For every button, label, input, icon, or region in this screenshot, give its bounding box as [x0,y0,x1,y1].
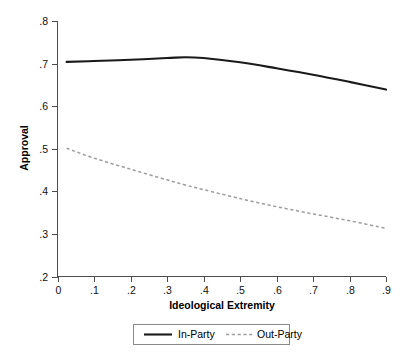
line-chart: .2.3.4.5.6.7.8 Approval 0.1.2.3.4.5.6.7.… [0,0,402,360]
y-tick-label: .6 [39,100,48,112]
x-axis-title: Ideological Extremity [169,299,275,311]
x-tick-label: .2 [127,284,136,296]
x-axis: 0.1.2.3.4.5.6.7.8.9 Ideological Extremit… [56,277,391,312]
x-tick-label: .4 [200,284,209,296]
series-line-in-party [67,57,386,89]
x-tick-label: .3 [163,284,172,296]
x-tick-label: .5 [236,284,245,296]
y-axis-title: Approval [18,125,30,171]
y-tick-label: .3 [39,228,48,240]
y-tick-label: .7 [39,58,48,70]
x-tick-label: .6 [273,284,282,296]
x-tick-marks [59,277,387,283]
x-tick-label: .9 [382,284,391,296]
x-tick-label: .1 [90,284,99,296]
y-tick-label: .8 [39,15,48,27]
y-tick-label: .2 [39,271,48,283]
x-tick-label: .7 [309,284,318,296]
y-tick-label: .5 [39,143,48,155]
legend: In-Party Out-Party [134,325,303,345]
y-tick-labels: .2.3.4.5.6.7.8 [39,15,48,283]
chart-figure: .2.3.4.5.6.7.8 Approval 0.1.2.3.4.5.6.7.… [0,0,402,360]
legend-label-in-party: In-Party [178,328,216,340]
legend-label-out-party: Out-Party [257,328,303,340]
x-tick-label: .8 [346,284,355,296]
x-tick-label: 0 [56,284,62,296]
x-tick-labels: 0.1.2.3.4.5.6.7.8.9 [56,284,391,296]
y-tick-marks [52,22,58,278]
series-line-out-party [67,148,386,228]
y-axis: .2.3.4.5.6.7.8 Approval [18,15,58,283]
data-series-group [67,57,386,228]
y-tick-label: .4 [39,185,48,197]
